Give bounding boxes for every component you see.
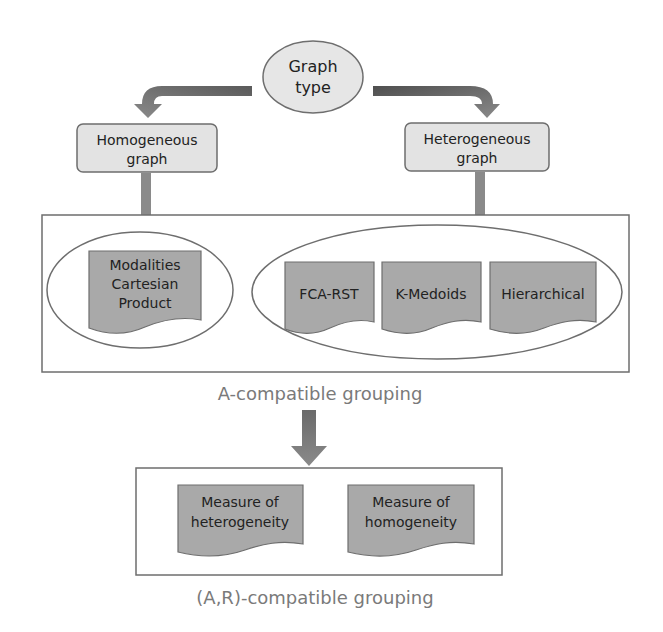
graph-type-node: Graph type xyxy=(263,41,363,113)
homogeneous-graph-node: Homogeneous graph xyxy=(77,124,217,172)
modalities-label-line-1: Modalities xyxy=(109,257,180,273)
ar-compatible-caption: (A,R)-compatible grouping xyxy=(196,587,433,608)
homogeneous-label-line-2: graph xyxy=(127,151,168,167)
heterogeneous-label-line-2: graph xyxy=(457,150,498,166)
arrow-to-homogeneous-icon xyxy=(134,86,252,118)
arrow-to-heterogeneous-icon xyxy=(373,86,500,118)
a-compatible-caption: A-compatible grouping xyxy=(218,383,423,404)
homogeneity-label-line-1: Measure of xyxy=(372,494,451,510)
heterogeneous-connector xyxy=(475,172,485,215)
graph-type-label-line-1: Graph xyxy=(288,57,337,76)
heterogeneous-label-line-1: Heterogeneous xyxy=(424,131,531,147)
homogeneous-label-line-1: Homogeneous xyxy=(96,132,197,148)
graph-type-label-line-2: type xyxy=(295,78,331,97)
k-medoids-label: K-Medoids xyxy=(396,286,467,302)
heterogeneity-label-line-1: Measure of xyxy=(201,494,280,510)
arrow-down-icon xyxy=(291,410,327,466)
fca-rst-label: FCA-RST xyxy=(299,286,359,302)
graph-type-diagram: Graph type Homogeneous graph Heterogeneo… xyxy=(0,0,663,632)
modalities-label-line-2: Cartesian xyxy=(112,276,179,292)
homogeneity-label-line-2: homogeneity xyxy=(365,514,457,530)
hierarchical-label: Hierarchical xyxy=(501,286,584,302)
modalities-label-line-3: Product xyxy=(118,295,172,311)
homogeneous-connector xyxy=(141,173,151,215)
heterogeneous-graph-node: Heterogeneous graph xyxy=(405,123,549,171)
heterogeneity-label-line-2: heterogeneity xyxy=(191,514,289,530)
